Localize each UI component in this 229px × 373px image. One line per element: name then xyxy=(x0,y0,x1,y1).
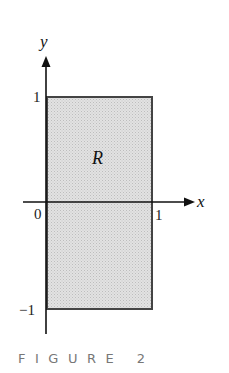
figure-canvas: y x 1 −1 0 1 R xyxy=(0,0,229,373)
y-axis-arrow-icon xyxy=(42,56,51,67)
y-tick-label-neg1: −1 xyxy=(19,302,35,318)
x-axis-arrow-icon xyxy=(184,198,195,207)
region-r-fill xyxy=(47,97,152,309)
figure-caption: FIGURE 2 xyxy=(18,351,155,366)
x-axis-label: x xyxy=(196,192,205,211)
figure: y x 1 −1 0 1 R FIGURE 2 xyxy=(0,0,229,373)
x-tick-label-0: 0 xyxy=(34,206,42,222)
x-tick-label-1: 1 xyxy=(155,207,163,223)
y-tick-label-1: 1 xyxy=(33,89,41,105)
region-label: R xyxy=(91,148,103,168)
y-axis-label: y xyxy=(38,32,48,51)
